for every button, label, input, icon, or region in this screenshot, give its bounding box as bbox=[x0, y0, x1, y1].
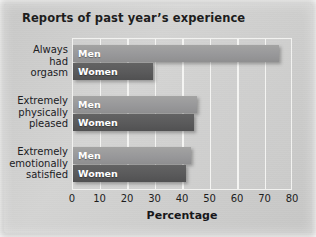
x-tick-label-40: 40 bbox=[176, 193, 189, 204]
bar-label-men: Men bbox=[73, 48, 101, 59]
category-label-3: Extremelyemotionallysatisfied bbox=[2, 146, 68, 181]
category-label-line: satisfied bbox=[2, 169, 68, 181]
bar-label-men: Men bbox=[73, 99, 101, 110]
chart-title: Reports of past year’s experience bbox=[22, 11, 245, 25]
chart-figure: Reports of past year’s experience Always… bbox=[0, 0, 316, 237]
plot-area: MenWomenMenWomenMenWomen bbox=[72, 38, 292, 190]
category-label-2: Extremelyphysicallypleased bbox=[2, 95, 68, 130]
bar-label-women: Women bbox=[73, 168, 118, 179]
x-tick-label-60: 60 bbox=[231, 193, 244, 204]
category-label-line: Extremely bbox=[2, 146, 68, 158]
bar-men-2: Men bbox=[73, 96, 197, 113]
x-tick-label-30: 30 bbox=[148, 193, 161, 204]
x-tick-label-0: 0 bbox=[69, 193, 75, 204]
category-label-1: Alwayshadorgasm bbox=[2, 44, 68, 79]
bar-label-men: Men bbox=[73, 150, 101, 161]
bar-women-3: Women bbox=[73, 165, 186, 182]
x-tick-label-70: 70 bbox=[258, 193, 271, 204]
x-tick-label-10: 10 bbox=[93, 193, 106, 204]
y-axis-category-labels: AlwayshadorgasmExtremelyphysicallyplease… bbox=[0, 38, 68, 190]
category-label-line: physically bbox=[2, 107, 68, 119]
bar-women-2: Women bbox=[73, 114, 194, 131]
category-label-line: emotionally bbox=[2, 158, 68, 170]
bar-women-1: Women bbox=[73, 63, 153, 80]
bar-men-1: Men bbox=[73, 45, 279, 62]
x-tick-label-80: 80 bbox=[286, 193, 299, 204]
bar-men-3: Men bbox=[73, 147, 191, 164]
x-axis-title: Percentage bbox=[72, 209, 292, 222]
category-label-line: pleased bbox=[2, 118, 68, 130]
category-label-line: orgasm bbox=[2, 67, 68, 79]
bar-label-women: Women bbox=[73, 117, 118, 128]
category-label-line: had bbox=[2, 56, 68, 68]
x-tick-label-50: 50 bbox=[203, 193, 216, 204]
bar-label-women: Women bbox=[73, 66, 118, 77]
x-tick-label-20: 20 bbox=[121, 193, 134, 204]
category-label-line: Always bbox=[2, 44, 68, 56]
category-label-line: Extremely bbox=[2, 95, 68, 107]
